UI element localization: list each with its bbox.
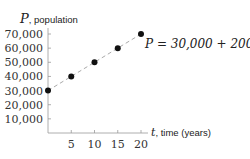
equation-annotation: P = 30,000 + 2000t [144, 37, 250, 51]
y-tick-label: 60,000 [5, 42, 44, 55]
chart: 10,00020,00030,00040,00050,00060,00070,0… [0, 0, 250, 159]
data-point [45, 88, 51, 94]
y-tick-label: 30,000 [5, 85, 44, 98]
data-point [115, 45, 121, 51]
y-tick-label: 20,000 [5, 99, 44, 112]
x-tick-label: 20 [134, 138, 148, 151]
y-tick-label: 10,000 [5, 113, 44, 126]
data-point [68, 73, 74, 79]
y-tick-label: 40,000 [5, 70, 44, 83]
x-tick-label: 15 [111, 138, 125, 151]
x-axis-label: t, time (years) [151, 126, 211, 139]
x-tick-label: 10 [88, 138, 102, 151]
y-tick-label: 70,000 [5, 28, 44, 41]
y-axis-label: P, population [19, 11, 78, 26]
y-tick-label: 50,000 [5, 56, 44, 69]
data-point [92, 59, 98, 65]
x-tick-label: 5 [68, 138, 75, 151]
y-ticks: 10,00020,00030,00040,00050,00060,00070,0… [5, 28, 52, 126]
data-point [138, 31, 144, 37]
data-points [45, 31, 144, 94]
